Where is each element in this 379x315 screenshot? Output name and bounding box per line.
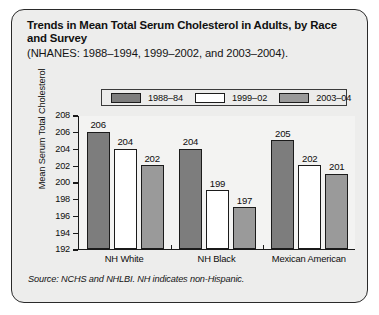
bar-rect [298, 165, 321, 249]
bar: 205 [271, 115, 294, 249]
y-axis-tick-label: 192 [55, 245, 70, 254]
bar: 202 [141, 115, 164, 249]
bar-value-label: 206 [90, 119, 105, 130]
bar: 204 [114, 115, 137, 249]
x-axis-category-label: NH Black [170, 253, 262, 264]
y-axis-tick-mark [73, 132, 78, 133]
bar-rect [179, 149, 202, 250]
legend-entry: 1999–02 [195, 93, 267, 103]
legend-entry: 2003–04 [279, 93, 351, 103]
bar-value-label: 205 [275, 128, 290, 139]
y-axis-tick-label: 200 [55, 178, 70, 187]
legend-label: 1999–02 [232, 93, 267, 103]
legend-label: 2003–04 [316, 93, 351, 103]
y-axis-tick-label: 206 [55, 128, 70, 137]
bar-rect [114, 149, 137, 250]
bar: 197 [233, 115, 256, 249]
y-axis-tick-label: 194 [55, 229, 70, 238]
y-axis-tick-label: 196 [55, 212, 70, 221]
y-axis-tick-mark [73, 115, 78, 116]
bar-value-label: 204 [183, 136, 198, 147]
bar: 202 [298, 115, 321, 249]
bar-group: 206204202 [79, 116, 171, 249]
figure-card: Trends in Mean Total Serum Cholesterol i… [11, 9, 368, 303]
bar-value-label: 201 [329, 161, 344, 172]
bar-value-label: 199 [210, 178, 225, 189]
page-title: Trends in Mean Total Serum Cholesterol i… [27, 19, 355, 46]
chart-legend: 1988–841999–022003–04 [101, 89, 347, 106]
legend-entry: 1988–84 [111, 93, 183, 103]
bar-group: 205202201 [264, 116, 356, 249]
y-axis-tick-label: 204 [55, 145, 70, 154]
bar-rect [325, 174, 348, 249]
legend-swatch [195, 93, 225, 103]
chart-subtitle: (NHANES: 1988–1994, 1999–2002, and 2003–… [27, 47, 355, 61]
bar: 204 [179, 115, 202, 249]
y-axis-tick-mark [73, 233, 78, 234]
y-axis-tick-mark [73, 182, 78, 183]
bar-value-label: 202 [302, 153, 317, 164]
bar-rect [87, 132, 110, 249]
y-axis-tick-mark [73, 199, 78, 200]
y-axis-tick-label: 208 [55, 111, 70, 120]
bar-group: 204199197 [171, 116, 263, 249]
bar-rect [233, 207, 256, 249]
bar-value-label: 202 [144, 153, 159, 164]
title-block: Trends in Mean Total Serum Cholesterol i… [27, 19, 355, 60]
bar-value-label: 204 [117, 136, 132, 147]
bar-value-label: 197 [237, 195, 252, 206]
source-note: Source: NCHS and NHLBI. NH indicates non… [28, 274, 244, 284]
legend-swatch [279, 93, 309, 103]
x-axis-category-label: Mexican American [263, 253, 355, 264]
bar: 206 [87, 115, 110, 249]
y-axis-tick-mark [73, 149, 78, 150]
bar-rect [271, 140, 294, 249]
plot-frame: 206204202204199197205202201 [78, 116, 355, 250]
x-axis-category-label: NH White [78, 253, 170, 264]
bar-rect [141, 165, 164, 249]
bar-rect [206, 190, 229, 249]
y-axis-tick-label: 202 [55, 162, 70, 171]
legend-label: 1988–84 [148, 93, 183, 103]
bar: 201 [325, 115, 348, 249]
y-axis-title: Mean Serum Total Cholesterol [37, 59, 47, 199]
y-axis-tick-label: 198 [55, 195, 70, 204]
legend-swatch [111, 93, 141, 103]
y-axis-tick-mark [73, 249, 78, 250]
plot-area: 206204202204199197205202201 208206204202… [70, 116, 355, 250]
y-axis-tick-mark [73, 166, 78, 167]
y-axis-tick-mark [73, 216, 78, 217]
bar: 199 [206, 115, 229, 249]
